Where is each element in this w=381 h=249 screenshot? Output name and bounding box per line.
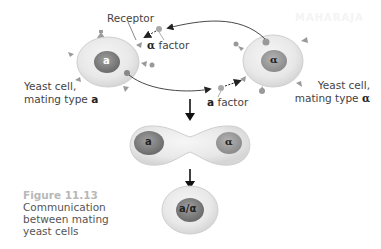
figure-caption: Communication between mating yeast cells	[23, 201, 123, 237]
nucleus-label-diploid: a/α	[179, 203, 196, 216]
figure-number: Figure 11.13	[23, 189, 98, 201]
cell-a-label: Yeast cell, mating type a	[24, 80, 98, 105]
down-arrow-1	[185, 99, 195, 121]
watermark: MAHARAJA	[295, 12, 364, 23]
receptor-leader-line	[128, 22, 136, 40]
nucleus-label-fusing-alpha: α	[225, 136, 233, 149]
alpha-factor-path-arrow	[168, 21, 265, 39]
a-factor-label: a factor	[207, 96, 248, 109]
a-factor-to-receptor-arrow	[225, 81, 240, 86]
alpha-factor-molecule	[156, 26, 162, 32]
nucleus-label-alpha: α	[270, 54, 278, 67]
a-factor-molecule	[218, 85, 224, 91]
nucleus-label-fusing-a: a	[145, 136, 152, 149]
cell-alpha-label: Yeast cell, mating type α	[290, 79, 370, 104]
nucleus-label-a: a	[103, 55, 110, 68]
a-factor-path-arrow	[129, 75, 210, 91]
receptor-label: Receptor	[107, 12, 154, 25]
alpha-factor-label: α factor	[147, 39, 189, 52]
alpha-factor-to-receptor-arrow	[145, 31, 156, 37]
